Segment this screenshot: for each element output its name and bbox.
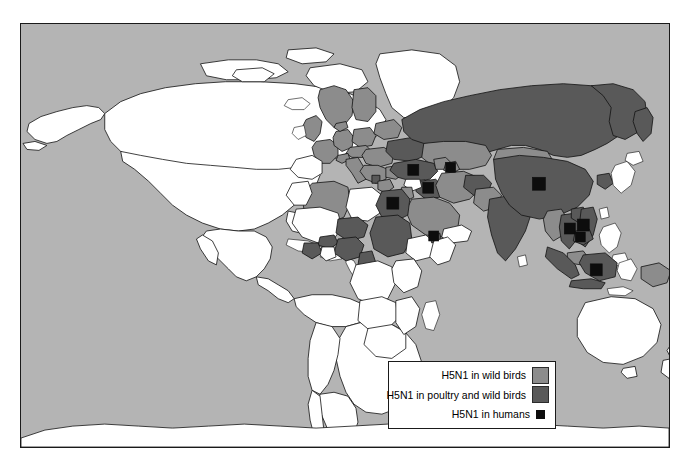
country-finland [352, 88, 376, 122]
legend-row-poultry-and-wild-birds: H5N1 in poultry and wild birds [393, 385, 549, 404]
country-sudan [370, 215, 412, 257]
region-antarctica [21, 424, 669, 447]
human-marker-iraq [423, 182, 434, 193]
island-sri-lanka [517, 255, 527, 267]
new-zealand-south-island [661, 358, 669, 378]
human-marker-china [532, 177, 545, 190]
human-marker-egypt [387, 197, 399, 209]
legend-swatch-poultry-and-wild-birds [532, 386, 549, 403]
island-philippines [599, 223, 621, 253]
region-asia [474, 151, 643, 266]
continent-antarctica [21, 424, 669, 447]
region-central-america [256, 277, 294, 303]
country-kenya-tanzania [392, 259, 422, 293]
world-map-svg [21, 24, 669, 447]
legend-label-poultry-and-wild-birds: H5N1 in poultry and wild birds [387, 390, 526, 401]
indonesia-lesser-sunda [607, 287, 633, 296]
ellesmere-island [286, 48, 334, 64]
country-australia [577, 297, 661, 365]
legend-swatch-wild-birds [532, 367, 549, 384]
human-marker-azerbaijan [446, 162, 456, 172]
kamchatka-peninsula [633, 108, 653, 142]
human-marker-djibouti [429, 231, 439, 241]
australia-tasmania [621, 366, 637, 378]
human-marker-vietnam [577, 219, 589, 231]
country-japan [611, 161, 635, 193]
aleutian-islands [23, 141, 47, 150]
human-marker-cambodia [575, 232, 585, 242]
legend-row-wild-birds: H5N1 in wild birds [393, 366, 549, 385]
country-alaska [27, 106, 105, 144]
human-marker-indonesia [590, 264, 602, 276]
legend-row-humans: H5N1 in humans [393, 405, 549, 424]
region-oceania [545, 247, 669, 378]
world-map-figure: H5N1 in wild birds H5N1 in poultry and w… [0, 0, 689, 465]
country-poland [352, 128, 376, 148]
legend-label-humans: H5N1 in humans [452, 409, 530, 420]
country-papua-new-guinea [641, 263, 669, 287]
island-taiwan [599, 207, 609, 219]
country-colombia-venezuela [294, 295, 368, 327]
country-ivory-coast [302, 243, 322, 259]
legend-label-wild-birds: H5N1 in wild birds [441, 370, 526, 381]
island-madagascar [422, 301, 440, 331]
country-korea [597, 173, 613, 189]
legend-swatch-humans [536, 410, 545, 419]
map-legend: H5N1 in wild birds H5N1 in poultry and w… [388, 361, 556, 429]
human-marker-turkey [408, 164, 419, 175]
human-marker-thailand [564, 223, 575, 234]
map-frame: H5N1 in wild birds H5N1 in poultry and w… [20, 23, 670, 448]
country-peru-bolivia [308, 323, 340, 395]
